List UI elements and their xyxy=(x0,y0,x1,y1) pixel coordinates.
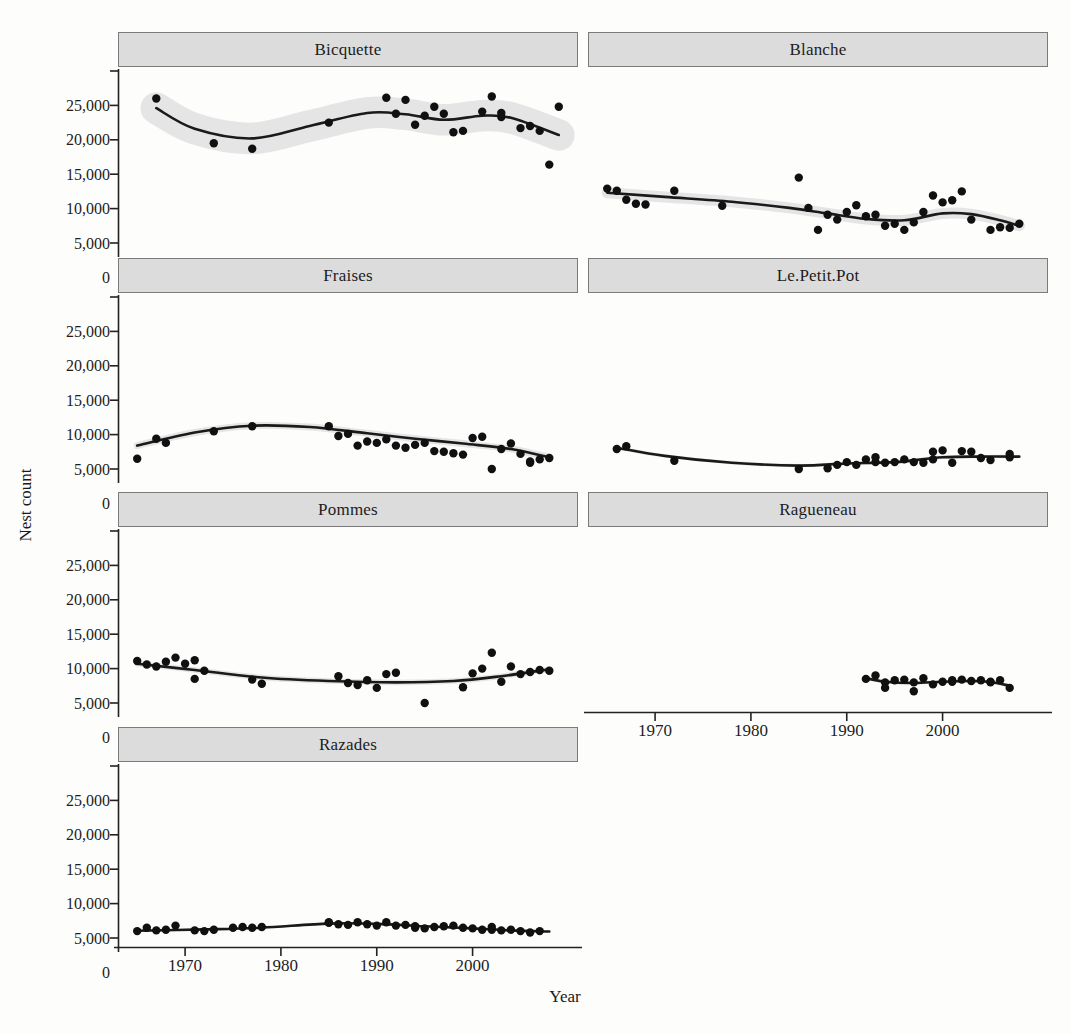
data-point xyxy=(871,211,879,219)
data-point xyxy=(986,678,994,686)
data-point xyxy=(382,435,390,443)
data-point xyxy=(852,201,860,209)
data-point xyxy=(478,926,486,934)
data-point xyxy=(411,121,419,129)
data-point xyxy=(516,927,524,935)
data-point xyxy=(449,921,457,929)
y-tick-label: 10,000 xyxy=(22,894,110,914)
data-point xyxy=(162,926,170,934)
data-point xyxy=(843,458,851,466)
y-tick-label: 10,000 xyxy=(22,199,110,219)
data-point xyxy=(641,200,649,208)
data-point xyxy=(862,455,870,463)
data-point xyxy=(948,196,956,204)
y-axis-labels xyxy=(492,293,580,483)
data-point xyxy=(430,103,438,111)
data-point xyxy=(325,118,333,126)
data-point xyxy=(191,675,199,683)
x-tick-label: 1990 xyxy=(817,721,877,741)
data-point xyxy=(133,927,141,935)
data-point xyxy=(910,218,918,226)
data-point xyxy=(181,660,189,668)
y-axis-labels: 05,00010,00015,00020,00025,000 xyxy=(22,67,110,257)
panel-title: Ragueneau xyxy=(779,500,856,519)
data-point xyxy=(948,678,956,686)
data-point xyxy=(248,675,256,683)
data-point xyxy=(622,196,630,204)
data-point xyxy=(929,455,937,463)
data-point xyxy=(795,465,803,473)
data-point xyxy=(440,110,448,118)
data-point xyxy=(421,924,429,932)
data-point xyxy=(814,226,822,234)
data-point xyxy=(152,435,160,443)
y-tick-label: 15,000 xyxy=(22,391,110,411)
y-tick-label: 0 xyxy=(22,494,110,514)
data-point xyxy=(900,675,908,683)
panel-ragueneau: Ragueneau 1970198019902000 xyxy=(588,492,1048,717)
data-point xyxy=(603,184,611,192)
y-tick-label: 5,000 xyxy=(22,460,110,480)
data-point xyxy=(613,445,621,453)
y-axis-labels xyxy=(492,527,580,717)
data-point xyxy=(929,448,937,456)
data-point xyxy=(967,448,975,456)
data-point xyxy=(200,667,208,675)
panel-strip: Fraises xyxy=(118,258,578,293)
x-axis-labels: 1970198019902000 xyxy=(588,717,1048,743)
data-point xyxy=(344,430,352,438)
data-point xyxy=(143,660,151,668)
data-point xyxy=(862,212,870,220)
data-point xyxy=(967,215,975,223)
data-point xyxy=(986,226,994,234)
y-tick-label: 15,000 xyxy=(22,165,110,185)
data-point xyxy=(382,918,390,926)
data-point xyxy=(986,456,994,464)
panel-title: Bicquette xyxy=(315,40,382,59)
data-point xyxy=(1006,450,1014,458)
data-point xyxy=(881,222,889,230)
data-point xyxy=(411,441,419,449)
data-point xyxy=(325,422,333,430)
data-point xyxy=(440,922,448,930)
data-point xyxy=(958,675,966,683)
data-point xyxy=(210,139,218,147)
data-point xyxy=(613,187,621,195)
data-point xyxy=(430,923,438,931)
data-point xyxy=(929,680,937,688)
y-tick-label: 15,000 xyxy=(22,625,110,645)
data-point xyxy=(440,448,448,456)
data-point xyxy=(162,439,170,447)
data-point xyxy=(200,927,208,935)
figure-page: { "colors": { "point": "#101010", "trend… xyxy=(0,0,1071,1034)
data-point xyxy=(1006,224,1014,232)
data-point xyxy=(430,447,438,455)
data-point xyxy=(353,441,361,449)
data-point xyxy=(459,683,467,691)
data-point xyxy=(373,439,381,447)
data-point xyxy=(392,669,400,677)
data-point xyxy=(823,464,831,472)
data-point xyxy=(162,658,170,666)
data-point xyxy=(459,127,467,135)
y-tick-label: 20,000 xyxy=(22,130,110,150)
panel-plot xyxy=(588,293,1048,483)
data-point xyxy=(497,926,505,934)
y-axis-labels xyxy=(492,67,580,257)
x-tick-label: 1990 xyxy=(347,956,407,976)
y-axis-labels: 05,00010,00015,00020,00025,000 xyxy=(22,293,110,483)
data-point xyxy=(258,680,266,688)
data-point xyxy=(881,684,889,692)
data-point xyxy=(852,461,860,469)
y-tick-label: 5,000 xyxy=(22,694,110,714)
data-point xyxy=(344,921,352,929)
panel-title: Le.Petit.Pot xyxy=(777,266,860,285)
data-point xyxy=(938,198,946,206)
data-point xyxy=(891,220,899,228)
panel-title: Fraises xyxy=(323,266,373,285)
y-axis-labels: 05,00010,00015,00020,00025,000 xyxy=(22,762,110,952)
data-point xyxy=(929,191,937,199)
data-point xyxy=(938,446,946,454)
data-point xyxy=(373,921,381,929)
data-point xyxy=(133,657,141,665)
